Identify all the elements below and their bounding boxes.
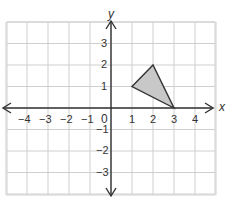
origin-label: 0 bbox=[101, 113, 108, 125]
x-tick-label: 3 bbox=[171, 114, 177, 125]
x-tick-label: −2 bbox=[60, 114, 73, 125]
x-tick-label: 4 bbox=[192, 114, 198, 125]
coordinate-plane bbox=[0, 0, 232, 198]
x-tick-label: −3 bbox=[39, 114, 52, 125]
y-axis-label: y bbox=[108, 8, 114, 20]
x-tick-label: 2 bbox=[150, 114, 156, 125]
x-axis-label: x bbox=[219, 101, 225, 113]
x-tick-label: −1 bbox=[81, 114, 94, 125]
y-tick-label: −3 bbox=[96, 167, 109, 178]
x-tick-label: −4 bbox=[18, 114, 31, 125]
y-tick-label: 3 bbox=[101, 38, 107, 49]
x-tick-label: 1 bbox=[129, 114, 135, 125]
y-tick-label: −2 bbox=[96, 145, 109, 156]
y-tick-label: 1 bbox=[101, 81, 107, 92]
y-tick-label: 2 bbox=[101, 59, 107, 70]
